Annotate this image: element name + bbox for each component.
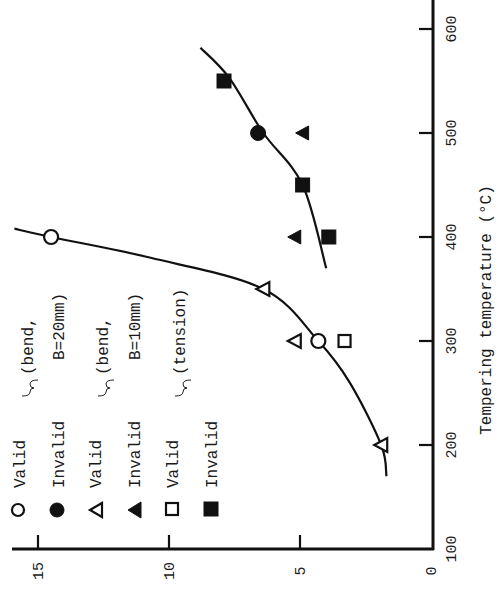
open-square-marker-icon: [339, 335, 351, 347]
legend-label-valid-b10: Valid: [88, 440, 106, 488]
open-circle-marker-icon: [44, 230, 58, 244]
legend-brace-b10: [98, 380, 114, 396]
value-tick-label: 0: [424, 566, 441, 575]
trend-curves: [14, 48, 386, 476]
chart-canvas: 100200300400500600 051015 Tempering temp…: [0, 0, 503, 610]
legend: Valid Invalid Valid Invalid Valid Invali…: [12, 289, 222, 518]
data-points: [44, 74, 387, 452]
temperature-ticks: 100200300400500600: [419, 15, 461, 562]
temperature-tick-label: 500: [444, 119, 461, 146]
filled-square-marker-icon: [322, 230, 336, 244]
value-tick-label: 15: [31, 562, 48, 580]
value-tick-label: 10: [162, 562, 179, 580]
legend-filled-triangle-icon: [128, 502, 141, 518]
legend-label-valid-tension: Valid: [165, 440, 183, 488]
temperature-tick-label: 100: [444, 535, 461, 562]
temperature-tick-label: 300: [444, 327, 461, 354]
open-triangle-marker-icon: [374, 438, 387, 452]
legend-group-b10-line2: B=10mm): [127, 293, 145, 360]
legend-filled-square-icon: [204, 502, 218, 516]
legend-filled-circle-icon: [50, 503, 64, 517]
legend-label-valid-b20: Valid: [12, 440, 30, 488]
filled-triangle-marker-icon: [296, 126, 309, 140]
open-triangle-marker-icon: [256, 282, 269, 296]
value-ticks: 051015: [31, 535, 441, 580]
trend-curve: [14, 229, 386, 477]
legend-group-b10-line1: (bend,: [95, 317, 113, 375]
legend-group-b20-line2: B=20mm): [51, 293, 69, 360]
filled-square-marker-icon: [217, 74, 231, 88]
temperature-tick-label: 200: [444, 431, 461, 458]
legend-open-square-icon: [166, 503, 178, 515]
open-circle-marker-icon: [311, 334, 325, 348]
filled-circle-marker-icon: [251, 126, 266, 141]
legend-label-invalid-b10: Invalid: [127, 421, 145, 488]
legend-group-b20-line1: (bend,: [20, 317, 38, 375]
legend-label-invalid-tension: Invalid: [204, 421, 222, 488]
legend-brace-tension: [175, 380, 191, 396]
legend-label-invalid-b20: Invalid: [51, 421, 69, 488]
temperature-tick-label: 600: [444, 15, 461, 42]
value-tick-label: 5: [293, 566, 310, 575]
legend-open-circle-icon: [12, 504, 24, 516]
filled-triangle-marker-icon: [288, 230, 301, 244]
legend-group-tension: (tension): [172, 289, 190, 375]
filled-square-marker-icon: [296, 178, 310, 192]
legend-open-triangle-icon: [90, 503, 102, 517]
legend-brace-b20: [22, 380, 38, 396]
temperature-tick-label: 400: [444, 223, 461, 250]
open-triangle-marker-icon: [288, 334, 301, 348]
x-axis-title: Tempering temperature (°C): [478, 185, 496, 435]
